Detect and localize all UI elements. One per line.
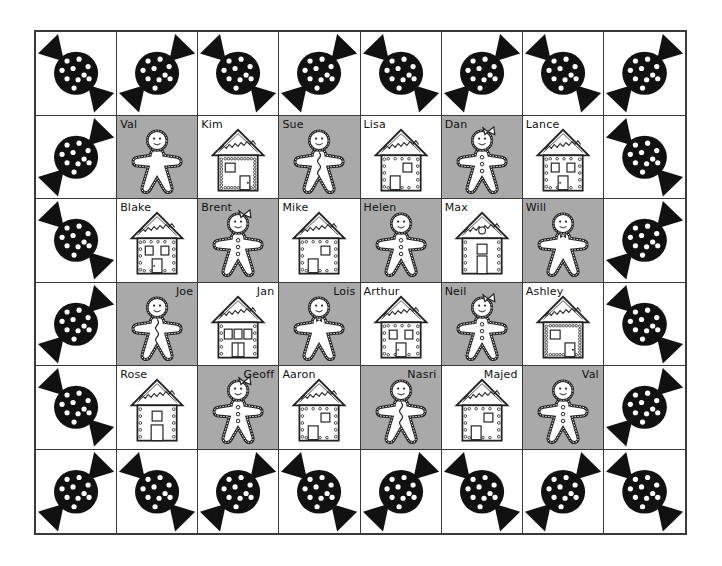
candy-tile — [117, 450, 198, 534]
seat-name-label: Val — [120, 118, 137, 131]
seat-tile[interactable]: Lois — [279, 283, 360, 367]
seat-name-label: Joe — [176, 285, 193, 298]
seat-name-label: Lisa — [364, 118, 386, 131]
seat-name-label: Lois — [333, 285, 355, 298]
candy-tile — [604, 450, 685, 534]
seat-tile[interactable]: Jan — [198, 283, 279, 367]
seat-name-label: Jan — [257, 285, 275, 298]
seat-tile[interactable]: Kim — [198, 116, 279, 200]
seat-name-label: Helen — [364, 201, 397, 214]
candy-tile — [604, 199, 685, 283]
seat-tile[interactable]: Arthur — [361, 283, 442, 367]
seat-tile[interactable]: Neil — [442, 283, 523, 367]
candy-tile — [604, 283, 685, 367]
seat-name-label: Nasri — [407, 368, 436, 381]
seat-tile[interactable]: Helen — [361, 199, 442, 283]
seat-name-label: Ashley — [526, 285, 564, 298]
seat-name-label: Max — [445, 201, 468, 214]
seat-name-label: Val — [582, 368, 599, 381]
seat-tile[interactable]: Lisa — [361, 116, 442, 200]
candy-tile — [279, 32, 360, 116]
candy-tile — [523, 450, 604, 534]
seat-tile[interactable]: Will — [523, 199, 604, 283]
candy-tile — [36, 366, 117, 450]
seat-tile[interactable]: Geoff — [198, 366, 279, 450]
candy-tile — [36, 450, 117, 534]
candy-tile — [523, 32, 604, 116]
seat-tile[interactable]: Dan — [442, 116, 523, 200]
candy-tile — [604, 116, 685, 200]
seating-chart-board: ValKimSueLisaDanLanceBlakeBrentMikeHelen… — [34, 30, 687, 535]
candy-tile — [279, 450, 360, 534]
candy-tile — [442, 32, 523, 116]
seat-name-label: Sue — [282, 118, 303, 131]
seat-tile[interactable]: Rose — [117, 366, 198, 450]
candy-tile — [36, 116, 117, 200]
seat-tile[interactable]: Majed — [442, 366, 523, 450]
candy-tile — [604, 366, 685, 450]
seat-tile[interactable]: Nasri — [361, 366, 442, 450]
seat-tile[interactable]: Joe — [117, 283, 198, 367]
seat-tile[interactable]: Max — [442, 199, 523, 283]
seat-tile[interactable]: Val — [523, 366, 604, 450]
seat-name-label: Lance — [526, 118, 560, 131]
seat-tile[interactable]: Blake — [117, 199, 198, 283]
candy-tile — [198, 450, 279, 534]
seat-name-label: Kim — [201, 118, 223, 131]
seat-name-label: Majed — [484, 368, 518, 381]
seat-name-label: Arthur — [364, 285, 400, 298]
candy-tile — [36, 283, 117, 367]
seat-name-label: Neil — [445, 285, 467, 298]
seat-name-label: Blake — [120, 201, 151, 214]
seat-tile[interactable]: Aaron — [279, 366, 360, 450]
candy-tile — [117, 32, 198, 116]
seat-tile[interactable]: Val — [117, 116, 198, 200]
candy-tile — [198, 32, 279, 116]
candy-tile — [442, 450, 523, 534]
seat-tile[interactable]: Sue — [279, 116, 360, 200]
seat-name-label: Rose — [120, 368, 147, 381]
seat-tile[interactable]: Lance — [523, 116, 604, 200]
seat-name-label: Will — [526, 201, 547, 214]
candy-tile — [361, 450, 442, 534]
seat-name-label: Aaron — [282, 368, 315, 381]
seat-tile[interactable]: Ashley — [523, 283, 604, 367]
seat-tile[interactable]: Brent — [198, 199, 279, 283]
candy-tile — [36, 32, 117, 116]
seat-tile[interactable]: Mike — [279, 199, 360, 283]
seat-name-label: Geoff — [244, 368, 275, 381]
candy-tile — [36, 199, 117, 283]
seat-name-label: Brent — [201, 201, 232, 214]
seat-name-label: Mike — [282, 201, 308, 214]
candy-tile — [361, 32, 442, 116]
seat-name-label: Dan — [445, 118, 468, 131]
candy-tile — [604, 32, 685, 116]
